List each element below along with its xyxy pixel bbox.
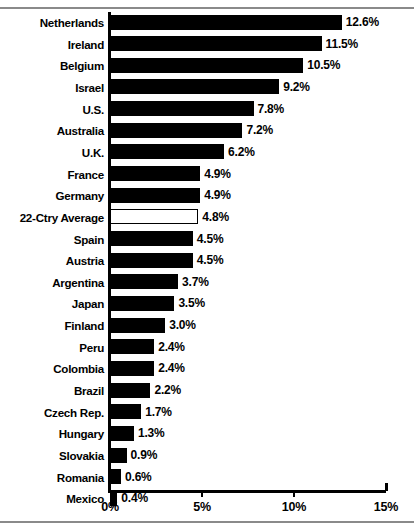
category-label: Germany xyxy=(0,185,104,207)
bar xyxy=(110,36,322,51)
bar-row: Israel9.2% xyxy=(0,77,414,99)
bar-row: Australia7.2% xyxy=(0,120,414,142)
category-label: Belgium xyxy=(0,55,104,77)
bar-row: Belgium10.5% xyxy=(0,55,414,77)
bar xyxy=(110,166,200,181)
bar xyxy=(110,15,342,30)
category-label: Netherlands xyxy=(0,12,104,34)
bar-row: Germany4.9% xyxy=(0,185,414,207)
category-label: Romania xyxy=(0,467,104,489)
bar-row: Finland3.0% xyxy=(0,315,414,337)
bar-value-label: 2.4% xyxy=(158,337,185,357)
bar xyxy=(110,231,193,246)
bar-row: U.K.6.2% xyxy=(0,142,414,164)
bar xyxy=(110,101,254,116)
bar-row: Romania0.6% xyxy=(0,467,414,489)
bar-value-label: 6.2% xyxy=(228,142,255,162)
bar xyxy=(110,448,127,463)
bar-value-label: 3.0% xyxy=(169,315,196,335)
category-label: U.K. xyxy=(0,142,104,164)
bar xyxy=(110,469,121,484)
bar xyxy=(110,426,134,441)
category-label: Colombia xyxy=(0,358,104,380)
bar xyxy=(110,79,279,94)
category-label: Peru xyxy=(0,337,104,359)
bar-value-label: 1.7% xyxy=(145,402,172,422)
bar-row: Argentina3.7% xyxy=(0,272,414,294)
category-label: Brazil xyxy=(0,380,104,402)
bar-row: Slovakia0.9% xyxy=(0,445,414,467)
bar-value-label: 4.9% xyxy=(204,164,231,184)
bar-value-label: 4.5% xyxy=(197,250,224,270)
page-rule-top xyxy=(0,7,414,9)
category-label: Spain xyxy=(0,229,104,251)
category-label: France xyxy=(0,164,104,186)
bar xyxy=(110,188,200,203)
bar-row: Spain4.5% xyxy=(0,229,414,251)
bar-value-label: 4.8% xyxy=(202,207,229,227)
bar-value-label: 4.5% xyxy=(197,229,224,249)
bar-value-label: 3.5% xyxy=(178,293,205,313)
bar-row: 22-Ctry Average4.8% xyxy=(0,207,414,229)
bar-row: Ireland11.5% xyxy=(0,34,414,56)
bar-row: Colombia2.4% xyxy=(0,358,414,380)
bar-value-label: 2.2% xyxy=(154,380,181,400)
bar xyxy=(110,144,224,159)
value-axis-tick-label: 10% xyxy=(282,500,306,514)
value-axis-tick xyxy=(201,490,203,497)
bar xyxy=(110,296,174,311)
bar-value-label: 4.9% xyxy=(204,185,231,205)
bar xyxy=(110,274,178,289)
bar-row: Peru2.4% xyxy=(0,337,414,359)
bar-value-label: 1.3% xyxy=(138,423,165,443)
bar xyxy=(110,404,141,419)
value-axis-tick xyxy=(385,483,388,491)
bar-value-label: 7.8% xyxy=(258,99,285,119)
category-label: Japan xyxy=(0,293,104,315)
page-rule-bottom xyxy=(0,521,414,523)
bar-value-label: 0.9% xyxy=(131,445,158,465)
value-axis-tick-label: 15% xyxy=(374,500,398,514)
bar-row: Japan3.5% xyxy=(0,293,414,315)
bar-value-label: 0.6% xyxy=(125,467,152,487)
bar-chart-figure: Netherlands12.6%Ireland11.5%Belgium10.5%… xyxy=(0,0,414,531)
bar-row: France4.9% xyxy=(0,164,414,186)
category-label: Argentina xyxy=(0,272,104,294)
bar-highlighted xyxy=(110,209,198,224)
bar-value-label: 3.7% xyxy=(182,272,209,292)
bar xyxy=(110,253,193,268)
category-label: Czech Rep. xyxy=(0,402,104,424)
bar xyxy=(110,383,150,398)
category-label: Israel xyxy=(0,77,104,99)
bar-row: Brazil2.2% xyxy=(0,380,414,402)
category-label: Hungary xyxy=(0,423,104,445)
bar xyxy=(110,339,154,354)
bar-value-label: 11.5% xyxy=(326,34,358,54)
bar-value-label: 9.2% xyxy=(283,77,310,97)
bar-value-label: 2.4% xyxy=(158,358,185,378)
category-label: Austria xyxy=(0,250,104,272)
category-label: Finland xyxy=(0,315,104,337)
value-axis-tick xyxy=(293,490,295,497)
bar-row: Netherlands12.6% xyxy=(0,12,414,34)
bar xyxy=(110,318,165,333)
bar-value-label: 0.4% xyxy=(121,488,148,508)
value-axis-tick-label: 0% xyxy=(101,500,119,514)
bar xyxy=(110,123,242,138)
category-label: Australia xyxy=(0,120,104,142)
category-label: Slovakia xyxy=(0,445,104,467)
category-label: U.S. xyxy=(0,99,104,121)
value-axis-tick-label: 5% xyxy=(193,500,211,514)
category-label: Ireland xyxy=(0,34,104,56)
bar-row: U.S.7.8% xyxy=(0,99,414,121)
bar xyxy=(110,361,154,376)
category-label: Mexico xyxy=(0,488,104,510)
bar-row: Hungary1.3% xyxy=(0,423,414,445)
bar-value-label: 12.6% xyxy=(346,12,379,32)
bar-row: Czech Rep.1.7% xyxy=(0,402,414,424)
value-axis-tick xyxy=(108,483,111,491)
bar-row: Austria4.5% xyxy=(0,250,414,272)
category-label: 22-Ctry Average xyxy=(0,207,104,229)
bar-value-label: 10.5% xyxy=(307,55,340,75)
bar xyxy=(110,58,303,73)
